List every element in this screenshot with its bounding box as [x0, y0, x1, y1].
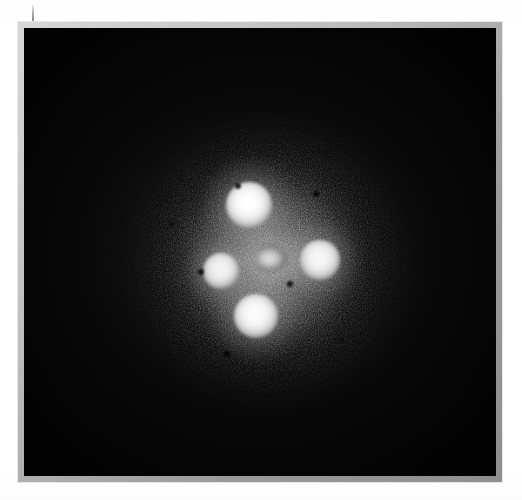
astronomical-plate [24, 28, 496, 476]
nucleus-core [254, 244, 288, 274]
emulsion-speck [198, 269, 204, 275]
quasar-image-d-south [234, 294, 278, 338]
plate-frame-border [18, 22, 502, 482]
page-canvas [0, 0, 522, 500]
emulsion-speck [170, 222, 174, 226]
emulsion-speck [287, 281, 293, 287]
emulsion-speck [235, 183, 241, 189]
quasar-core [226, 182, 272, 228]
emulsion-speck [224, 351, 230, 357]
emulsion-speck [340, 338, 344, 342]
lens-galaxy-nucleus [254, 244, 288, 274]
quasar-core [234, 294, 278, 338]
emulsion-speck [313, 191, 319, 197]
quasar-image-a-north [226, 182, 272, 228]
margin-tick-mark [32, 4, 34, 23]
